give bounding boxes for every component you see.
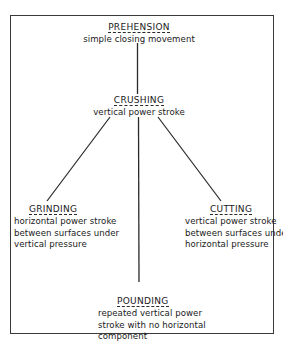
node-description-line: vertical pressure	[14, 239, 124, 251]
node-title: POUNDING	[117, 296, 169, 307]
node-description-line: between surfaces under	[14, 228, 124, 240]
edge-crushing-grinding	[47, 117, 110, 201]
node-description-line: vertical power stroke	[185, 216, 277, 228]
node-description-line: horizontal pressure	[185, 239, 277, 251]
edge-crushing-cutting	[158, 117, 221, 201]
node-description-line: repeated vertical power	[98, 308, 208, 320]
node-grinding: GRINDING horizontal power stroke between…	[14, 204, 124, 251]
node-pounding: POUNDING repeated vertical power stroke …	[98, 296, 208, 343]
node-description-line: stroke with no horizontal	[98, 320, 208, 332]
node-title: GRINDING	[29, 204, 77, 215]
node-description-line: component	[98, 331, 208, 343]
node-cutting: CUTTING vertical power stroke between su…	[185, 204, 277, 251]
edge-crushing-pounding	[139, 117, 140, 282]
node-title: CUTTING	[210, 204, 252, 215]
node-title: CRUSHING	[114, 95, 164, 106]
node-crushing: CRUSHING vertical power stroke	[78, 95, 200, 119]
node-title: PREHENSION	[108, 22, 170, 33]
connector-lines	[0, 0, 283, 344]
node-description: simple closing movement	[78, 34, 200, 46]
node-description-line: horizontal power stroke	[14, 216, 124, 228]
node-description-line: between surfaces under	[185, 228, 277, 240]
node-prehension: PREHENSION simple closing movement	[78, 22, 200, 46]
node-description: vertical power stroke	[78, 107, 200, 119]
